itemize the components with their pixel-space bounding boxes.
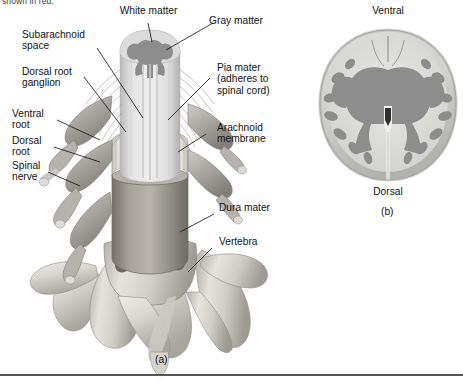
label-dorsal-root-ganglion: Dorsal root ganglion bbox=[22, 66, 72, 89]
label-ventral: Ventral bbox=[348, 5, 428, 16]
label-vertebra: Vertebra bbox=[219, 236, 258, 247]
panel-b-cross-section bbox=[320, 30, 456, 180]
spinal-cord-column bbox=[120, 30, 180, 182]
spinal-nerves-left bbox=[39, 96, 112, 284]
label-arachnoid-membrane: Arachnoid membrane bbox=[217, 122, 266, 145]
label-dura-mater: Dura mater bbox=[219, 202, 270, 213]
label-dorsal-root: Dorsal root bbox=[12, 135, 41, 158]
caption-panel-b: (b) bbox=[381, 206, 393, 217]
label-dorsal: Dorsal bbox=[348, 186, 428, 197]
figure-spinal-cord: shown in red. bbox=[0, 0, 463, 385]
footer-divider bbox=[0, 374, 463, 376]
label-gray-matter: Gray matter bbox=[186, 15, 286, 26]
label-spinal-nerve: Spinal nerve bbox=[12, 160, 40, 183]
label-subarachnoid-space: Subarachnoid space bbox=[22, 29, 85, 52]
caption-panel-a: (a) bbox=[155, 354, 167, 365]
label-ventral-root: Ventral root bbox=[12, 108, 44, 131]
label-pia-mater: Pia mater (adheres to spinal cord) bbox=[217, 62, 270, 96]
